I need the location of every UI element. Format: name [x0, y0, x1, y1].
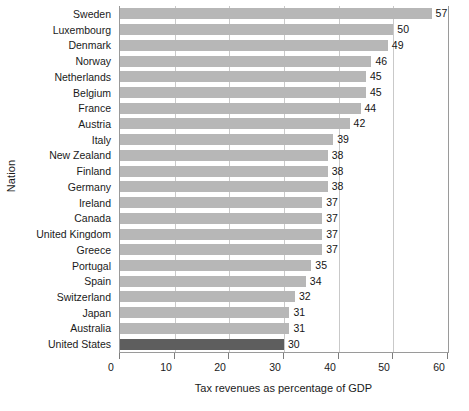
bar-value-label: 38 [328, 150, 344, 161]
category-label: Canada [74, 210, 111, 226]
bar [120, 276, 306, 287]
bar-value-label: 49 [388, 40, 404, 51]
category-label: Finland [77, 163, 111, 179]
bar-value-label: 39 [333, 134, 349, 145]
category-label: United States [48, 336, 111, 352]
category-label: Luxembourg [53, 22, 111, 38]
x-axis-tick [283, 353, 284, 359]
bar-value-label: 31 [289, 307, 305, 318]
bar [120, 213, 322, 224]
bar-value-label: 37 [322, 244, 338, 255]
bar-value-label: 38 [328, 181, 344, 192]
bar-value-label: 46 [371, 56, 387, 67]
bar [120, 197, 322, 208]
category-label: Italy [92, 132, 111, 148]
x-axis-tick-label: 10 [160, 360, 172, 374]
bar [120, 40, 388, 51]
category-label: Ireland [79, 195, 111, 211]
category-label: Belgium [73, 85, 111, 101]
bar-value-label: 45 [366, 71, 382, 82]
x-axis-tick-label: 30 [269, 360, 281, 374]
bar [120, 56, 371, 67]
bar-value-label: 37 [322, 213, 338, 224]
x-axis-tick-label: 60 [433, 360, 445, 374]
bar [120, 229, 322, 240]
x-axis-title: Tax revenues as percentage of GDP [119, 382, 448, 394]
category-label: Portugal [72, 258, 111, 274]
bar-value-label: 37 [322, 197, 338, 208]
x-axis-tick [174, 353, 175, 359]
bar [120, 134, 333, 145]
x-axis-tick [228, 353, 229, 359]
bar [120, 260, 311, 271]
bar-value-label: 42 [350, 118, 366, 129]
category-label: Sweden [73, 6, 111, 22]
bar-value-label: 57 [432, 8, 448, 19]
bar-value-label: 35 [311, 260, 327, 271]
category-label: Japan [82, 305, 111, 321]
category-axis-labels: SwedenLuxembourgDenmarkNorwayNetherlands… [22, 6, 115, 352]
bar [120, 118, 350, 129]
x-axis-tick-label: 50 [378, 360, 390, 374]
bar-value-label: 31 [289, 323, 305, 334]
bar [120, 291, 295, 302]
bar [120, 71, 366, 82]
category-label: France [78, 100, 111, 116]
x-axis-tick-label: 40 [324, 360, 336, 374]
category-label: Australia [70, 320, 111, 336]
category-label: Switzerland [57, 289, 111, 305]
bar-value-label: 50 [393, 24, 409, 35]
bar [120, 181, 328, 192]
y-axis-title: Nation [0, 0, 22, 352]
bar [120, 8, 432, 19]
x-axis-tick [392, 353, 393, 359]
bar [120, 24, 393, 35]
x-axis-tick [119, 353, 120, 359]
plot-area: 5750494645454442393838383737373735343231… [119, 6, 449, 353]
x-axis-ticks [119, 353, 448, 360]
category-label: Greece [77, 242, 111, 258]
bars-layer: 5750494645454442393838383737373735343231… [120, 6, 448, 352]
bar-value-label: 44 [361, 103, 377, 114]
bar-value-label: 30 [284, 339, 300, 350]
bar [120, 87, 366, 98]
bar-value-label: 34 [306, 276, 322, 287]
x-axis-tick-label: 20 [214, 360, 226, 374]
category-label: Netherlands [54, 69, 111, 85]
bar-value-label: 32 [295, 291, 311, 302]
category-label: Spain [84, 273, 111, 289]
bar-value-label: 37 [322, 229, 338, 240]
category-label: Denmark [68, 37, 111, 53]
x-axis-tick [447, 353, 448, 359]
category-label: Austria [78, 116, 111, 132]
category-label: New Zealand [49, 147, 111, 163]
bar [120, 244, 322, 255]
bar [120, 307, 289, 318]
bar-value-label: 45 [366, 87, 382, 98]
x-axis-tick [338, 353, 339, 359]
category-label: Germany [68, 179, 111, 195]
bar [120, 339, 284, 350]
bar [120, 166, 328, 177]
bar [120, 103, 361, 114]
y-axis-title-text: Nation [5, 160, 17, 192]
bar [120, 323, 289, 334]
bar-chart: Nation SwedenLuxembourgDenmarkNorwayNeth… [0, 0, 469, 411]
category-label: Norway [75, 53, 111, 69]
category-label: United Kingdom [36, 226, 111, 242]
x-axis-tick-labels: 0102030405060 [119, 360, 448, 374]
bar-value-label: 38 [328, 166, 344, 177]
x-axis-tick-label: 0 [108, 360, 114, 374]
bar [120, 150, 328, 161]
